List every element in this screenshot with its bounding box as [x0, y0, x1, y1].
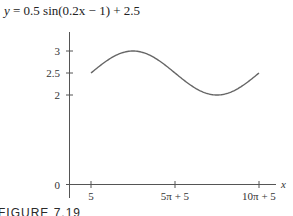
y-tick-label: 2.5	[46, 67, 60, 79]
y-tick-label: 2	[55, 89, 61, 101]
x-tick-label: 5π + 5	[161, 190, 190, 202]
figure-caption: FIGURE 7.19	[0, 206, 81, 216]
x-axis-label: x	[280, 178, 286, 190]
y-tick-label: 3	[55, 45, 61, 57]
y-tick-label: 0	[55, 179, 61, 191]
sine-chart: 022.53 55π + 510π + 5 x	[0, 0, 293, 216]
y-ticks: 022.53	[46, 45, 73, 191]
sine-curve	[91, 51, 259, 95]
x-tick-label: 10π + 5	[242, 190, 276, 202]
x-tick-label: 5	[88, 190, 94, 202]
